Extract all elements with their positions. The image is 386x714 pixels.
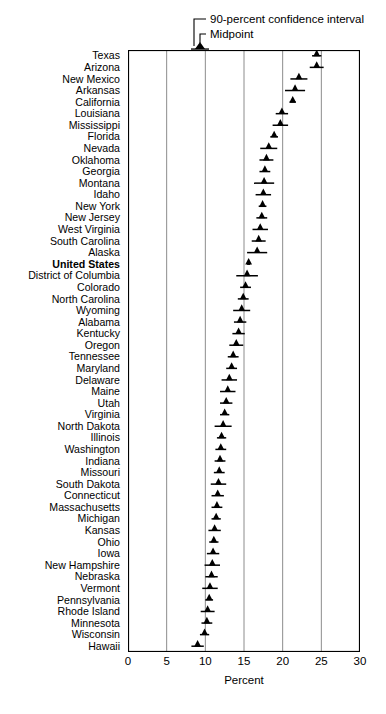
data-row — [232, 327, 244, 334]
data-row — [191, 640, 203, 647]
data-row — [240, 281, 251, 288]
midpoint-marker — [194, 640, 201, 647]
category-label: Arizona — [84, 61, 120, 73]
data-row — [220, 385, 235, 392]
midpoint-marker — [260, 189, 267, 196]
category-label: Utah — [98, 397, 120, 409]
midpoint-marker — [215, 478, 222, 485]
data-row — [220, 408, 229, 415]
midpoint-marker — [206, 594, 213, 601]
midpoint-marker — [278, 107, 285, 114]
data-row — [253, 223, 268, 230]
x-tick-label: 15 — [224, 654, 264, 668]
x-tick-label: 5 — [147, 654, 187, 668]
legend-label-confidence-interval: 90-percent confidence interval — [210, 13, 364, 25]
category-label: North Dakota — [58, 420, 120, 432]
midpoint-marker — [230, 351, 237, 358]
category-label: Tennessee — [69, 350, 120, 362]
category-label: Alabama — [78, 316, 120, 328]
midpoint-marker — [292, 84, 299, 91]
category-label: Maryland — [76, 362, 120, 374]
midpoint-marker — [208, 571, 215, 578]
midpoint-marker — [261, 165, 268, 172]
midpoint-marker — [237, 316, 244, 323]
data-row — [245, 258, 252, 265]
category-label: Nebraska — [75, 570, 120, 582]
data-row — [259, 200, 267, 207]
category-label: Iowa — [98, 547, 120, 559]
category-label: New Jersey — [65, 211, 120, 223]
midpoint-marker — [254, 246, 261, 253]
category-label: Hawaii — [88, 640, 120, 652]
midpoint-marker — [289, 96, 296, 103]
category-label: Oklahoma — [72, 154, 120, 166]
x-tick-label: 30 — [340, 654, 380, 668]
data-row — [207, 547, 219, 554]
midpoint-marker — [240, 293, 247, 300]
data-row — [215, 443, 226, 450]
data-row — [222, 374, 237, 381]
category-label: South Dakota — [56, 478, 120, 490]
midpoint-marker — [209, 559, 216, 566]
data-row — [202, 582, 217, 589]
category-label: New Hampshire — [45, 559, 120, 571]
midpoint-marker — [265, 142, 272, 149]
category-label: Massachusetts — [49, 501, 120, 513]
midpoint-marker — [207, 582, 214, 589]
data-row — [285, 84, 305, 91]
data-row — [259, 165, 270, 172]
data-row — [233, 304, 250, 311]
midpoint-marker — [210, 536, 217, 543]
category-label: Nevada — [83, 142, 120, 154]
category-label: Wisconsin — [72, 628, 120, 640]
category-label: Wyoming — [76, 304, 120, 316]
midpoint-marker — [233, 339, 240, 346]
data-row — [205, 571, 217, 578]
midpoint-marker — [223, 397, 230, 404]
x-tick-label: 10 — [185, 654, 225, 668]
data-row — [238, 293, 249, 300]
data-row — [256, 212, 267, 219]
data-row — [200, 628, 209, 635]
data-row — [215, 420, 232, 427]
midpoint-marker — [213, 513, 220, 520]
category-label: Louisiana — [75, 107, 120, 119]
data-row — [252, 235, 266, 242]
data-row — [201, 605, 215, 612]
midpoint-marker — [220, 420, 227, 427]
category-label: Minnesota — [71, 617, 120, 629]
data-row — [209, 536, 218, 543]
category-label: Virginia — [85, 408, 120, 420]
midpoint-marker — [257, 223, 264, 230]
category-label-column: TexasArizonaNew MexicoArkansasCalifornia… — [0, 50, 124, 652]
data-row — [276, 107, 288, 114]
category-label: Arkansas — [76, 84, 120, 96]
category-label: Montana — [79, 177, 120, 189]
category-label: California — [75, 96, 120, 108]
data-row — [220, 397, 232, 404]
data-row — [236, 270, 258, 277]
midpoint-marker — [218, 432, 225, 439]
category-label: District of Columbia — [28, 269, 120, 281]
category-label: Pennsylvania — [57, 594, 120, 606]
x-tick-label: 20 — [263, 654, 303, 668]
data-row — [247, 246, 267, 253]
data-row — [226, 362, 237, 369]
category-label: Idaho — [93, 188, 120, 200]
midpoint-marker — [296, 73, 303, 80]
data-row — [212, 513, 221, 520]
data-row — [201, 617, 212, 624]
x-axis-title: Percent — [128, 674, 360, 686]
data-row — [259, 154, 273, 161]
data-row — [212, 490, 224, 497]
category-label: South Carolina — [50, 235, 120, 247]
plot-area — [128, 50, 360, 652]
data-row — [256, 189, 271, 196]
midpoint-marker — [271, 131, 278, 138]
midpoint-marker — [313, 61, 320, 68]
data-row — [208, 524, 220, 531]
midpoint-marker — [242, 281, 249, 288]
category-label: Missouri — [81, 466, 120, 478]
category-label: New Mexico — [62, 73, 120, 85]
midpoint-marker — [263, 154, 270, 161]
